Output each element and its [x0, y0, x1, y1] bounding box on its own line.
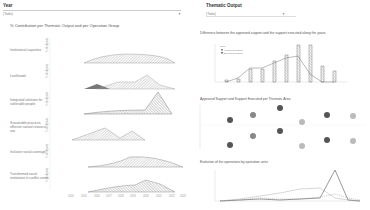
- svg-text:2017: 2017: [106, 194, 112, 198]
- scatter-chart: [190, 103, 365, 153]
- svg-text:% de Aporte: % de Aporte: [45, 91, 49, 106]
- svg-text:Executed support: Executed support: [224, 52, 243, 55]
- svg-text:2018: 2018: [118, 194, 124, 198]
- area-charts: % de Aporte % de Aporte % de Aporte % de…: [0, 0, 190, 210]
- svg-text:2014: 2014: [68, 194, 74, 198]
- svg-text:% de Aporte: % de Aporte: [45, 143, 49, 158]
- chevron-down-icon[interactable]: ▼: [282, 12, 285, 16]
- svg-text:% de Aporte: % de Aporte: [45, 117, 49, 132]
- bar-line-chart: Serie Approved support Executed support: [200, 42, 365, 87]
- svg-text:2020: 2020: [143, 194, 149, 198]
- right-top-title: Difference between the approved support …: [200, 31, 325, 35]
- svg-text:2022: 2022: [169, 194, 175, 198]
- svg-text:2019: 2019: [130, 194, 136, 198]
- svg-text:2021: 2021: [156, 194, 162, 198]
- line-chart: [200, 168, 365, 208]
- svg-text:2023: 2023: [180, 194, 186, 198]
- svg-text:2016: 2016: [94, 194, 100, 198]
- svg-text:% de Aporte: % de Aporte: [45, 63, 49, 78]
- svg-text:2015: 2015: [81, 194, 87, 198]
- svg-text:% de Aporte: % de Aporte: [45, 167, 49, 182]
- right-bottom-title: Evolution of the operations by operation…: [200, 160, 268, 164]
- thematic-filter-label: Thematic Output: [206, 3, 242, 8]
- right-mid-title: Approved Support and Support Executed pe…: [200, 97, 290, 101]
- svg-text:% de Aporte: % de Aporte: [45, 37, 49, 52]
